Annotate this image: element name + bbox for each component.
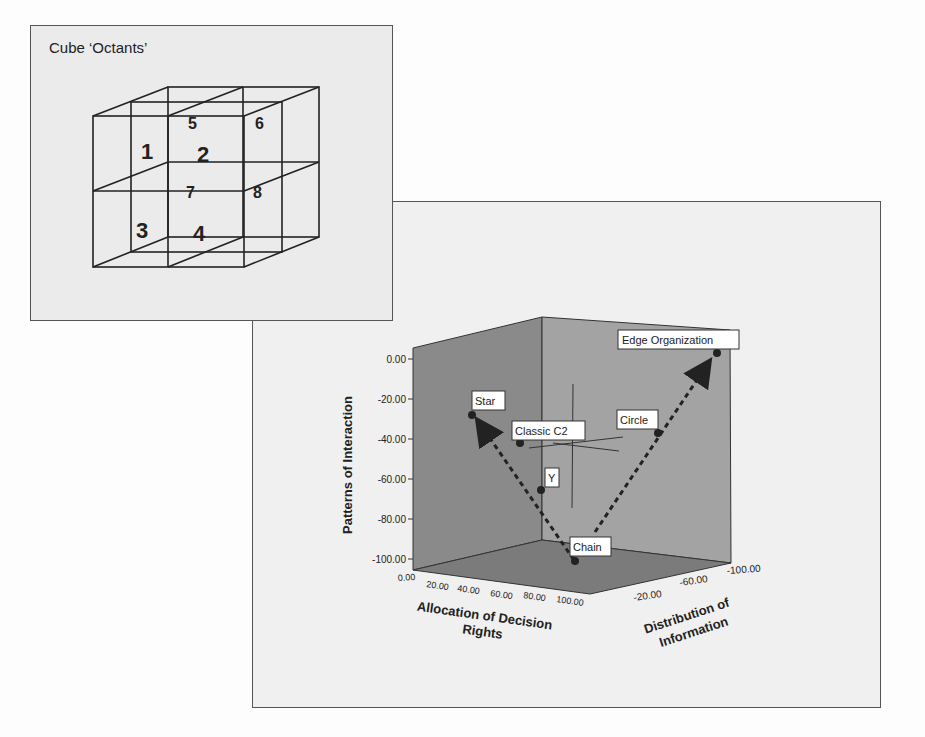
label-classic-c2: Classic C2 (515, 425, 568, 437)
octant-6: 6 (255, 115, 264, 132)
point-star[interactable] (468, 411, 476, 419)
y-tick-2: -100.00 (726, 563, 761, 576)
z-tick-3: -60.00 (378, 474, 407, 485)
z-tick-4: -80.00 (378, 514, 407, 525)
y-tick-1: -60.00 (679, 573, 709, 588)
z-tick-0: 0.00 (387, 354, 407, 365)
octant-7: 7 (186, 184, 195, 201)
x-tick-0: 0.00 (397, 572, 415, 583)
label-chain: Chain (573, 541, 602, 553)
point-y[interactable] (537, 486, 545, 494)
x-tick-3: 60.00 (490, 588, 514, 601)
x-tick-1: 20.00 (426, 579, 450, 592)
octant-5: 5 (188, 115, 197, 132)
octant-8: 8 (253, 184, 262, 201)
z-tick-5: -100.00 (372, 554, 406, 565)
label-edge-organization: Edge Organization (622, 334, 713, 346)
z-tick-2: -40.00 (378, 434, 407, 445)
cube-wireframe (93, 87, 319, 267)
point-edge-organization[interactable] (713, 349, 721, 357)
x-tick-4: 80.00 (523, 590, 547, 603)
z-axis: 0.00 -20.00 -40.00 -60.00 -80.00 -100.00… (340, 354, 413, 565)
cube-diagram: 1 2 3 4 5 6 7 8 (31, 26, 394, 322)
label-circle: Circle (620, 414, 648, 426)
x-tick-2: 40.00 (457, 583, 481, 596)
octant-3: 3 (136, 218, 148, 243)
octant-1: 1 (141, 139, 153, 164)
y-tick-0: -20.00 (633, 588, 663, 603)
x-tick-5: 100.00 (556, 594, 585, 608)
point-chain[interactable] (571, 557, 579, 565)
cube-octants-panel: Cube ‘Octants’ 1 2 3 4 (30, 25, 393, 321)
label-star: Star (475, 395, 496, 407)
z-axis-title: Patterns of Interaction (340, 396, 355, 534)
z-tick-1: -20.00 (378, 394, 407, 405)
octant-2: 2 (197, 142, 209, 167)
point-circle[interactable] (654, 429, 662, 437)
label-y: Y (548, 472, 556, 484)
octant-4: 4 (193, 221, 206, 246)
